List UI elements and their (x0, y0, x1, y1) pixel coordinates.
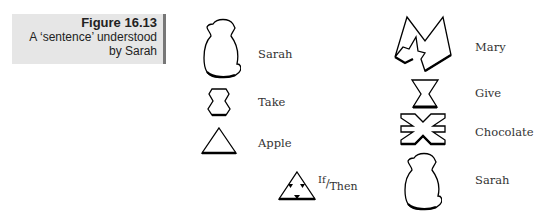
star-cross-icon (397, 112, 449, 146)
label-mary: Mary (475, 40, 506, 54)
hexagon-icon (206, 87, 232, 117)
label-sarah-right: Sarah (475, 173, 510, 187)
triangle-with-arrows-icon (277, 170, 317, 202)
triangle-icon (200, 126, 238, 156)
label-sarah: Sarah (258, 47, 293, 61)
label-take: Take (258, 95, 285, 109)
label-chocolate: Chocolate (475, 125, 533, 139)
label-if-then: If/Then (318, 174, 358, 193)
figure-caption: Figure 16.13 A ‘sentence’ understood by … (12, 14, 166, 64)
caption-line-2: by Sarah (12, 44, 157, 58)
monkey-icon (203, 18, 241, 80)
monkey-icon (404, 152, 442, 212)
label-apple: Apple (258, 136, 292, 150)
label-give: Give (475, 86, 501, 100)
figure-number: Figure 16.13 (12, 16, 157, 30)
caption-line-1: A ‘sentence’ understood (12, 30, 157, 44)
hourglass-icon (409, 78, 441, 110)
m-shape-icon (393, 15, 459, 73)
